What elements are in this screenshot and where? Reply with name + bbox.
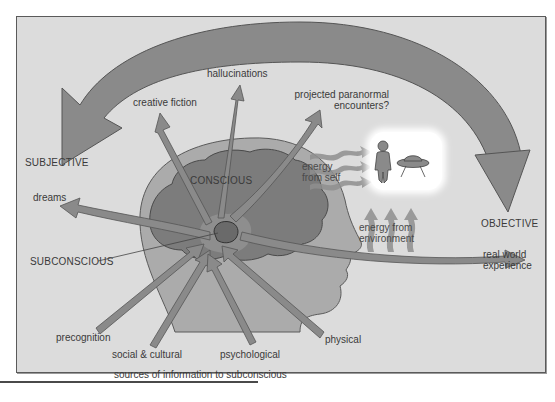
input-label-social-cultural: social & cultural <box>112 349 182 360</box>
caption-sources: sources of information to subconscious <box>114 369 287 380</box>
input-label-psychological: psychological <box>220 349 280 360</box>
input-label-precognition: precognition <box>56 332 110 343</box>
output-label-hallucinations: hallucinations <box>207 68 268 79</box>
real-world-line1: real world <box>483 249 532 260</box>
output-label-dreams: dreams <box>33 192 66 203</box>
real-world-line2: experience <box>483 260 532 271</box>
output-label-creative-fiction: creative fiction <box>133 97 197 108</box>
projected-paranormal-line2: encounters? <box>279 100 389 111</box>
page-rule-divider <box>0 381 258 383</box>
output-label-projected-paranormal: projected paranormal encounters? <box>279 89 389 111</box>
energy-from-environment-label: energy from environment <box>359 222 414 244</box>
projected-paranormal-line1: projected paranormal <box>279 89 389 100</box>
output-label-real-world: real world experience <box>483 249 532 271</box>
energy-from-self-label: energy from self <box>302 161 340 183</box>
input-label-physical: physical <box>325 334 361 345</box>
energy-self-line1: energy <box>302 161 340 172</box>
energy-self-line2: from self <box>302 172 340 183</box>
energy-env-line2: environment <box>359 233 414 244</box>
energy-env-line1: energy from <box>359 222 414 233</box>
